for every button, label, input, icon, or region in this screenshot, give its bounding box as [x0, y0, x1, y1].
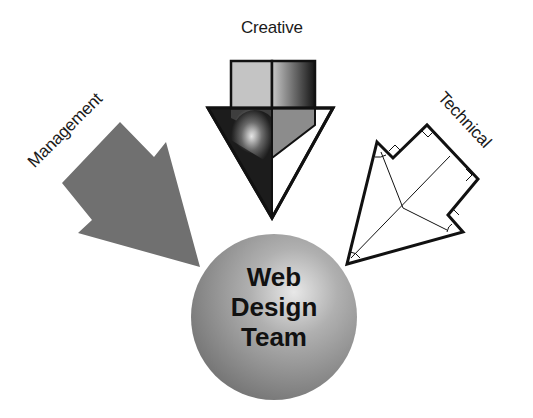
technical-arrow: [347, 125, 478, 264]
management-arrow: [62, 122, 200, 267]
center-line-1: Web: [192, 262, 356, 292]
center-line-2: Design: [192, 292, 356, 322]
creative-label: Creative: [241, 18, 303, 38]
diagram-canvas: [0, 0, 533, 418]
center-title: Web Design Team: [192, 262, 356, 352]
creative-arrow: [208, 61, 333, 218]
center-line-3: Team: [192, 322, 356, 352]
